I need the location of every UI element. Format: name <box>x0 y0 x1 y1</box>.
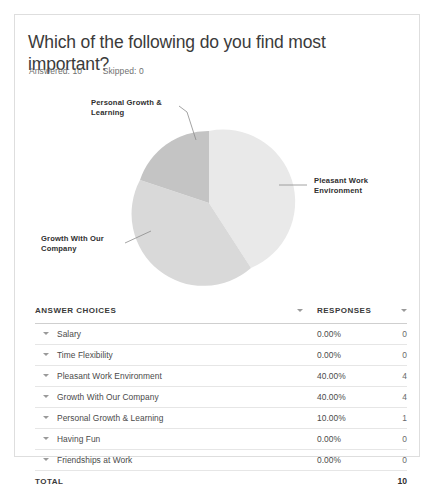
chevron-down-icon-row[interactable] <box>43 416 49 419</box>
row-percent: 0.00% <box>317 434 341 444</box>
column-header-answer-choices: ANSWER CHOICES <box>35 306 116 315</box>
total-label: TOTAL <box>35 477 63 486</box>
row-label: Salary <box>57 329 81 339</box>
row-count: 1 <box>377 413 407 423</box>
row-count: 4 <box>377 392 407 402</box>
row-percent: 10.00% <box>317 413 346 423</box>
row-count: 0 <box>377 350 407 360</box>
response-meta: Answered: 10 Skipped: 0 <box>29 66 144 76</box>
row-label: Growth With Our Company <box>57 392 159 402</box>
table-row[interactable]: Personal Growth & Learning 10.00% 1 <box>35 408 407 429</box>
table-row[interactable]: Pleasant Work Environment 40.00% 4 <box>35 366 407 387</box>
total-count: 10 <box>377 476 407 486</box>
row-label: Time Flexibility <box>57 350 113 360</box>
results-table: ANSWER CHOICES RESPONSES Salary 0.00% 0 … <box>35 301 407 488</box>
pie-chart: Personal Growth & Learning Pleasant Work… <box>15 81 419 303</box>
answered-count: Answered: 10 <box>29 66 82 76</box>
row-percent: 40.00% <box>317 371 346 381</box>
row-count: 4 <box>377 371 407 381</box>
table-row[interactable]: Growth With Our Company 40.00% 4 <box>35 387 407 408</box>
chevron-down-icon-row[interactable] <box>43 458 49 461</box>
skipped-count: Skipped: 0 <box>103 66 144 76</box>
row-label: Pleasant Work Environment <box>57 371 162 381</box>
row-percent: 0.00% <box>317 329 341 339</box>
row-label: Having Fun <box>57 434 100 444</box>
row-percent: 0.00% <box>317 455 341 465</box>
pie-label-growth-with-our-company-line2: Company <box>41 244 77 253</box>
chevron-down-icon-row[interactable] <box>43 395 49 398</box>
pie-label-personal-growth-learning-line1: Personal Growth & <box>91 98 162 107</box>
pie-label-growth-with-our-company-line1: Growth With Our <box>41 234 104 243</box>
pie-label-pleasant-work-environment-line1: Pleasant Work <box>314 176 369 185</box>
chevron-down-icon-row[interactable] <box>43 437 49 440</box>
row-label: Friendships at Work <box>57 455 132 465</box>
question-card: Which of the following do you find most … <box>14 14 420 457</box>
table-row[interactable]: Having Fun 0.00% 0 <box>35 429 407 450</box>
chevron-down-icon-responses[interactable] <box>401 309 407 312</box>
row-count: 0 <box>377 455 407 465</box>
table-row[interactable]: Time Flexibility 0.00% 0 <box>35 345 407 366</box>
column-header-responses: RESPONSES <box>317 306 371 315</box>
row-label: Personal Growth & Learning <box>57 413 164 423</box>
chevron-down-icon-row[interactable] <box>43 353 49 356</box>
pie-label-pleasant-work-environment-line2: Environment <box>314 186 362 195</box>
row-count: 0 <box>377 329 407 339</box>
row-count: 0 <box>377 434 407 444</box>
pie-label-personal-growth-learning-line2: Learning <box>91 108 124 117</box>
chevron-down-icon-row[interactable] <box>43 374 49 377</box>
table-total-row: TOTAL 10 <box>35 471 407 488</box>
chevron-down-icon-row[interactable] <box>43 332 49 335</box>
row-percent: 40.00% <box>317 392 346 402</box>
chevron-down-icon-answer-choices[interactable] <box>297 309 303 312</box>
table-row[interactable]: Friendships at Work 0.00% 0 <box>35 450 407 471</box>
row-percent: 0.00% <box>317 350 341 360</box>
table-row[interactable]: Salary 0.00% 0 <box>35 324 407 345</box>
table-header-row: ANSWER CHOICES RESPONSES <box>35 301 407 324</box>
